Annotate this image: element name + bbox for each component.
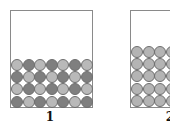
particle-circle bbox=[143, 58, 155, 70]
particle-circle bbox=[11, 96, 23, 108]
particle-circle bbox=[34, 96, 46, 108]
particle-circle bbox=[69, 96, 81, 108]
particle-circle bbox=[23, 59, 35, 71]
panel-label-1: 1 bbox=[40, 110, 60, 124]
particle-circle bbox=[143, 83, 155, 95]
particle-circle bbox=[23, 96, 35, 108]
particle-circle bbox=[23, 83, 35, 95]
particle-circle bbox=[143, 46, 155, 58]
particle-circle bbox=[81, 83, 93, 95]
particle-circle bbox=[46, 71, 58, 83]
particle-circle bbox=[81, 59, 93, 71]
particle-circle bbox=[143, 95, 155, 107]
particle-circle bbox=[46, 96, 58, 108]
particle-circle bbox=[143, 70, 155, 82]
particle-circle bbox=[154, 95, 166, 107]
panel-label-2: 2 bbox=[160, 110, 170, 124]
particle-circle bbox=[81, 71, 93, 83]
particle-circle bbox=[81, 96, 93, 108]
particle-circle bbox=[131, 95, 143, 107]
particle-circle bbox=[11, 59, 23, 71]
particle-circle bbox=[131, 83, 143, 95]
particle-circle bbox=[69, 59, 81, 71]
particle-circle bbox=[131, 46, 143, 58]
particle-circle bbox=[154, 83, 166, 95]
particle-circle bbox=[166, 83, 170, 95]
particle-circle bbox=[23, 71, 35, 83]
particle-circle bbox=[57, 96, 69, 108]
particle-circle bbox=[46, 59, 58, 71]
